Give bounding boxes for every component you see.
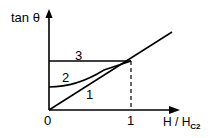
curve-label-2: 2 xyxy=(62,71,69,84)
x-axis xyxy=(49,106,180,114)
x-axis-label: H / HC2 xyxy=(163,116,201,128)
tick-label-one: 1 xyxy=(127,114,134,127)
curve-label-1: 1 xyxy=(86,88,93,101)
y-axis-label: tan θ xyxy=(11,11,40,24)
x-axis-label-main: H / H xyxy=(163,115,190,129)
tick-label-origin: 0 xyxy=(44,114,51,127)
y-axis xyxy=(45,9,52,110)
x-axis-label-subscript: C2 xyxy=(190,122,200,131)
curve-label-3: 3 xyxy=(75,49,82,62)
figure-container: tan θ H / HC2 0 1 3 2 1 xyxy=(0,0,211,138)
